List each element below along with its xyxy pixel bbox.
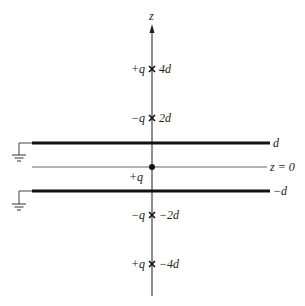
image-charge-diagram: z d z = 0 −d +q +q 4d xyxy=(0,0,305,306)
charge-position-label: −4d xyxy=(159,257,180,271)
lower-plate-label: −d xyxy=(273,184,288,198)
ground-icon xyxy=(12,143,32,161)
charge-position-label: −2d xyxy=(159,208,180,222)
axis-label: z xyxy=(148,9,154,23)
ground-icon xyxy=(12,191,32,210)
lower-plate: −d xyxy=(32,184,288,198)
charge-dot-icon xyxy=(149,164,155,170)
charge-sign-label: +q xyxy=(131,62,145,76)
charge-position-label: 2d xyxy=(159,111,172,125)
image-charge: +q −4d xyxy=(131,257,180,271)
midplane: z = 0 xyxy=(32,160,295,174)
upper-plate-label: d xyxy=(273,136,280,150)
upper-plate: d xyxy=(32,136,280,150)
charge-sign-label: −q xyxy=(131,111,145,125)
midplane-label: z = 0 xyxy=(269,160,295,174)
real-charge-label: +q xyxy=(129,170,143,184)
axis-arrow-icon xyxy=(150,24,155,33)
charge-position-label: 4d xyxy=(159,62,172,76)
charge-sign-label: −q xyxy=(131,208,145,222)
image-charge: −q −2d xyxy=(131,208,180,222)
charge-sign-label: +q xyxy=(131,257,145,271)
z-axis: z xyxy=(148,9,155,296)
